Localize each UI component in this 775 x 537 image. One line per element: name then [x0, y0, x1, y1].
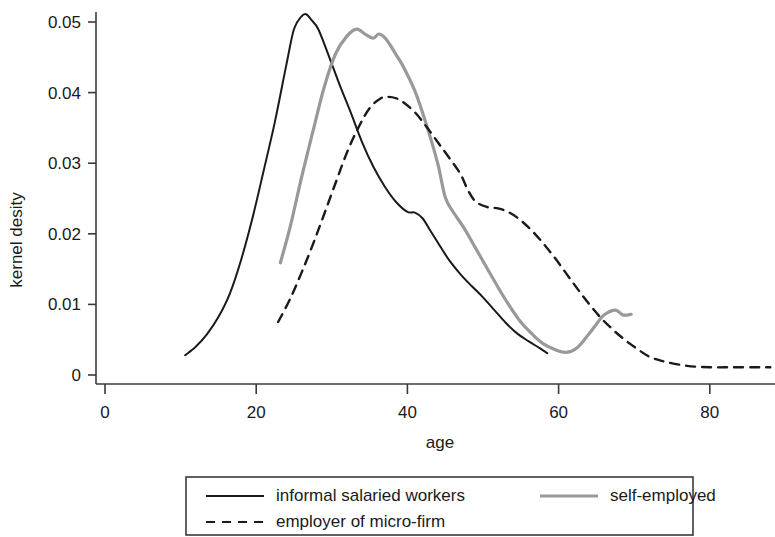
series-line-informal-salaried-workers: [185, 14, 547, 355]
y-tick-label: 0: [72, 366, 81, 385]
chart-svg: kernel desity 00.010.020.030.040.05 0204…: [0, 0, 775, 537]
y-axis-label: kernel desity: [7, 192, 26, 288]
legend-label-self-employed: self-employed: [610, 486, 716, 505]
legend-label-informal-salaried-workers: informal salaried workers: [276, 486, 465, 505]
x-axis-label: age: [426, 433, 454, 452]
y-tick-label: 0.05: [48, 13, 81, 32]
x-tick-label: 20: [247, 403, 266, 422]
y-tick-label: 0.03: [48, 154, 81, 173]
x-tick-label: 80: [700, 403, 719, 422]
y-tick-label: 0.02: [48, 225, 81, 244]
series-line-self-employed: [280, 29, 631, 352]
series-group: [185, 14, 770, 367]
kernel-density-chart: kernel desity 00.010.020.030.040.05 0204…: [0, 0, 775, 537]
x-axis-ticks: 020406080: [100, 384, 719, 422]
y-axis-ticks: 00.010.020.030.040.05: [48, 13, 96, 385]
y-tick-label: 0.01: [48, 295, 81, 314]
x-tick-label: 60: [549, 403, 568, 422]
y-tick-label: 0.04: [48, 84, 81, 103]
x-tick-label: 0: [100, 403, 109, 422]
legend-label-employer-of-micro-firm: employer of micro-firm: [276, 512, 445, 531]
legend-entries: informal salaried workersself-employedem…: [206, 486, 716, 531]
x-tick-label: 40: [398, 403, 417, 422]
